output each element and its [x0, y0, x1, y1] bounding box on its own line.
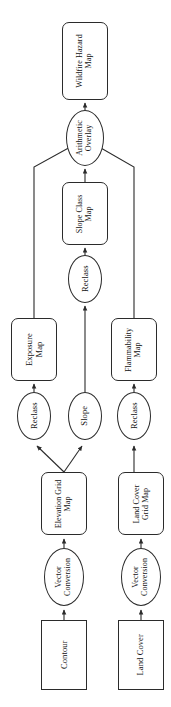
node-label-reclass-flammability: Reclass [129, 403, 139, 430]
node-flammability-map[interactable]: Flammability Map [111, 318, 157, 381]
node-label-vector-conversion-elevation: Vector Conversion [55, 558, 73, 596]
node-reclass-slope-class[interactable]: Reclass [68, 255, 102, 303]
node-label-elevation-grid-map: Elevation Grid Map [55, 479, 73, 528]
node-label-arithmetic-overlay: Arithmetic Overlay [76, 120, 94, 156]
node-label-reclass-slope-class: Reclass [80, 266, 90, 293]
node-contour[interactable]: Contour [41, 620, 87, 690]
node-slope[interactable]: Slope [68, 392, 102, 440]
node-arithmetic-overlay[interactable]: Arithmetic Overlay [66, 110, 104, 166]
flowchart-diagram: Wildfire Hazard MapArithmetic OverlayExp… [0, 0, 171, 707]
node-label-contour: Contour [59, 641, 69, 670]
node-slope-class-map[interactable]: Slope Class Map [62, 182, 108, 245]
node-reclass-flammability[interactable]: Reclass [117, 392, 151, 440]
node-label-exposure-map: Exposure Map [24, 333, 43, 366]
node-land-cover-grid-map[interactable]: Land Cover Grid Map [118, 472, 164, 535]
node-label-vector-conversion-land-cover: Vector Conversion [132, 558, 150, 596]
node-label-slope: Slope [80, 406, 90, 426]
node-vector-conversion-elevation[interactable]: Vector Conversion [44, 548, 84, 606]
node-label-slope-class-map: Slope Class Map [76, 194, 94, 233]
node-label-wildfire-hazard-map: Wildfire Hazard Map [76, 34, 94, 87]
node-exposure-map[interactable]: Exposure Map [11, 318, 57, 381]
node-vector-conversion-land-cover[interactable]: Vector Conversion [121, 548, 161, 606]
node-reclass-exposure[interactable]: Reclass [17, 392, 51, 440]
node-label-land-cover-grid-map: Land Cover Grid Map [132, 484, 150, 523]
node-label-reclass-exposure: Reclass [29, 403, 39, 430]
edge-elevation-grid-map-to-reclass-exposure [37, 446, 64, 472]
node-land-cover[interactable]: Land Cover [118, 620, 164, 690]
node-label-land-cover: Land Cover [136, 634, 146, 675]
node-wildfire-hazard-map[interactable]: Wildfire Hazard Map [62, 22, 108, 100]
edge-elevation-grid-map-to-slope [64, 446, 82, 472]
node-elevation-grid-map[interactable]: Elevation Grid Map [41, 472, 87, 535]
node-label-flammability-map: Flammability Map [125, 327, 143, 371]
